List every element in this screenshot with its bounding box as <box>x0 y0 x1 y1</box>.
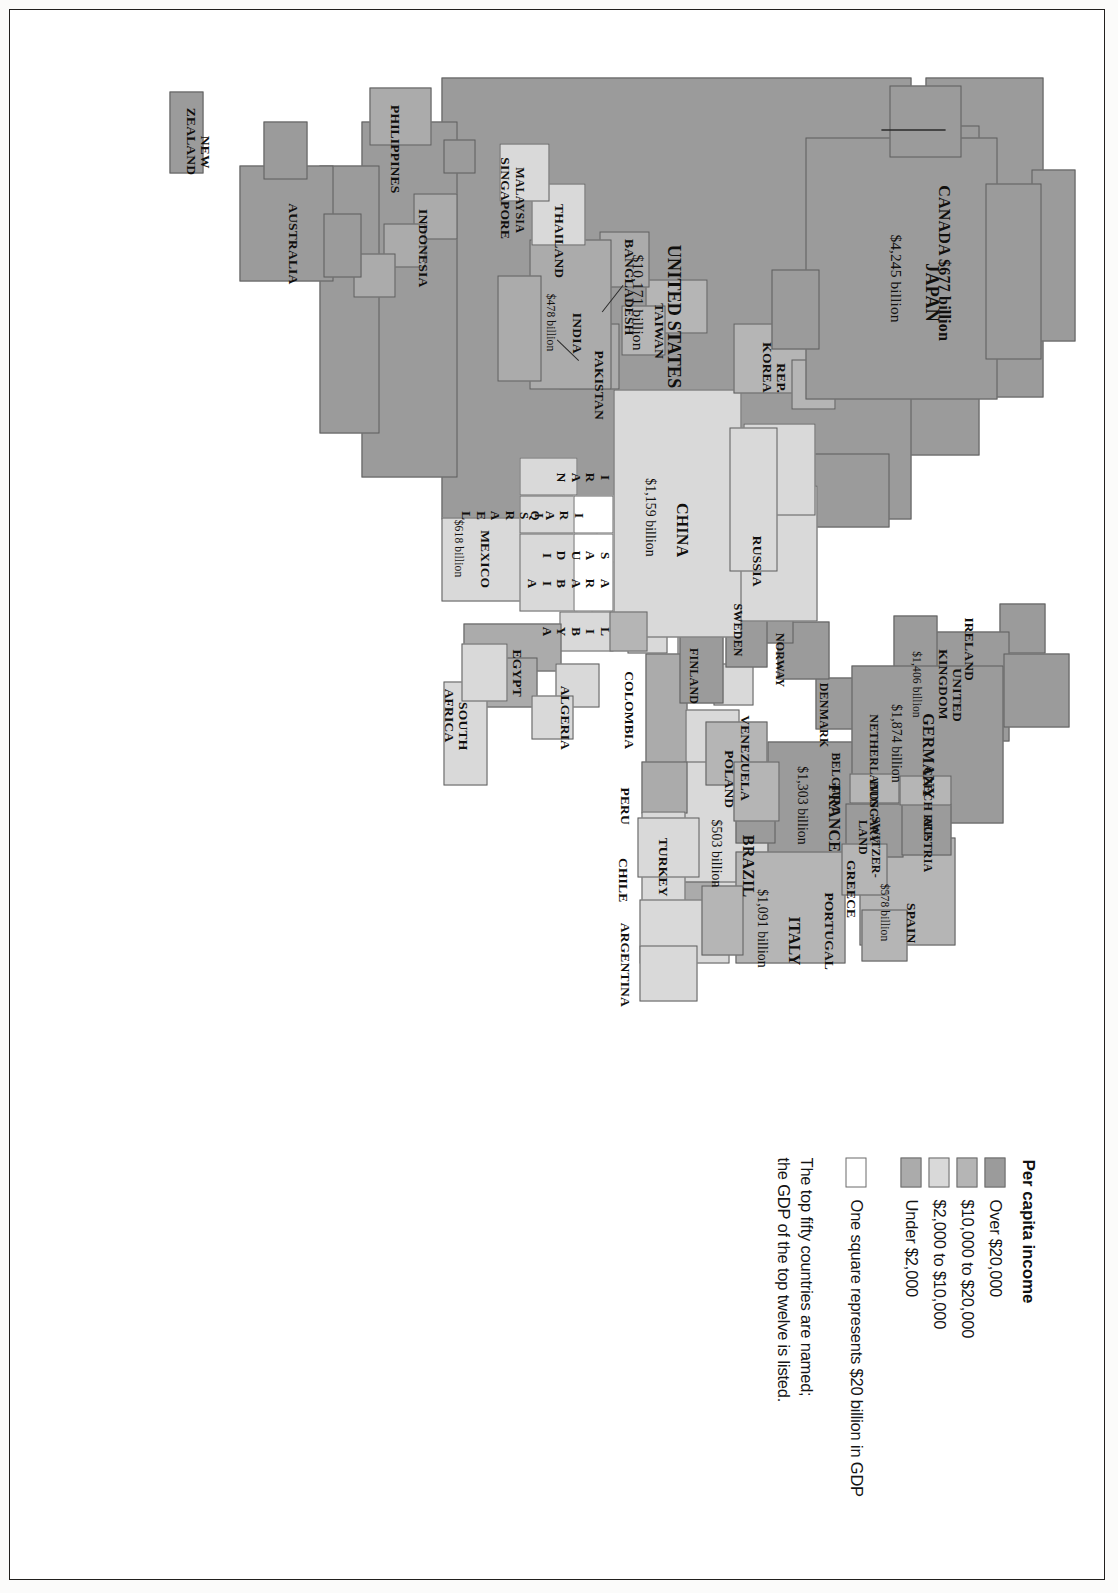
map-frame: CANADA $677 billion UNITED STATES $10,17… <box>9 9 1105 1580</box>
country-shape-finland[interactable] <box>679 629 723 703</box>
country-shape-japan-b[interactable] <box>985 183 1041 359</box>
country-shape-saudi-arabia[interactable] <box>519 533 577 611</box>
leader-line-canada <box>881 129 945 130</box>
page-background: CANADA $677 billion UNITED STATES $10,17… <box>0 0 1118 1593</box>
country-shape-south-africa-b[interactable] <box>461 643 507 701</box>
legend-note: The top fifty countries are named; the G… <box>771 1157 817 1537</box>
legend: Per capita income Over $20,000 $10,000 t… <box>771 1157 1037 1547</box>
country-shape-turkey[interactable] <box>637 817 699 877</box>
country-shape-singapore[interactable] <box>443 139 475 173</box>
country-shape-greece[interactable] <box>841 843 887 895</box>
country-shape-czech-rep[interactable] <box>899 775 951 805</box>
country-shape-iran[interactable] <box>519 457 577 495</box>
country-shape-saudi-arabia-b[interactable] <box>573 533 613 611</box>
legend-swatch-over-20000 <box>984 1157 1005 1187</box>
country-shape-malaysia[interactable] <box>499 143 549 201</box>
country-shape-australia-b[interactable] <box>323 213 361 277</box>
country-shape-iraq[interactable] <box>519 495 577 533</box>
country-shape-poland-b[interactable] <box>733 761 779 821</box>
country-shape-peru[interactable] <box>641 761 687 813</box>
legend-swatch-10000-20000 <box>956 1157 977 1187</box>
country-shape-china[interactable] <box>613 389 741 637</box>
legend-row-tier-4[interactable]: Under $2,000 <box>900 1157 921 1547</box>
country-shape-japan-d[interactable] <box>771 269 819 349</box>
legend-label-tier-4: Under $2,000 <box>901 1199 920 1297</box>
country-shape-algeria-b[interactable] <box>531 695 573 739</box>
legend-title: Per capita income <box>1017 1159 1037 1547</box>
country-shape-australia[interactable] <box>239 165 333 281</box>
country-shape-italy-b[interactable] <box>701 885 743 955</box>
country-shape-libya[interactable] <box>559 611 613 651</box>
country-shape-hungary[interactable] <box>849 773 899 803</box>
country-shape-philippines[interactable] <box>369 87 431 145</box>
country-shape-japan-c[interactable] <box>889 85 961 157</box>
legend-swatch-2000-10000 <box>928 1157 949 1187</box>
legend-row-tier-3[interactable]: $2,000 to $10,000 <box>928 1157 949 1547</box>
country-shape-new-zealand[interactable] <box>169 91 203 173</box>
legend-row-tier-2[interactable]: $10,000 to $20,000 <box>956 1157 977 1547</box>
country-shape-united-kingdom-b[interactable] <box>1003 653 1069 727</box>
legend-label-tier-2: $10,000 to $20,000 <box>957 1199 976 1338</box>
country-shape-taiwan-b[interactable] <box>621 305 665 355</box>
legend-label-unit: One square represents $20 billion in GDP <box>846 1199 865 1496</box>
country-shape-china-b[interactable] <box>729 427 777 571</box>
legend-swatch-unit-square <box>845 1157 866 1187</box>
country-shape-italy[interactable] <box>735 851 845 963</box>
legend-swatch-under-2000 <box>900 1157 921 1187</box>
country-shape-austria[interactable] <box>901 803 951 855</box>
country-shape-australia-c[interactable] <box>263 121 307 179</box>
legend-label-tier-1: Over $20,000 <box>985 1199 1004 1297</box>
country-shape-india-b[interactable] <box>497 275 541 381</box>
country-shape-portugal[interactable] <box>861 909 907 961</box>
country-shape-argentina-b[interactable] <box>639 945 697 1001</box>
legend-label-tier-3: $2,000 to $10,000 <box>929 1199 948 1329</box>
legend-row-tier-1[interactable]: Over $20,000 <box>984 1157 1005 1547</box>
country-shape-japan[interactable] <box>805 137 997 399</box>
legend-row-unit: One square represents $20 billion in GDP <box>845 1157 866 1547</box>
country-shape-gulf-states[interactable] <box>609 611 647 651</box>
country-shape-israel[interactable] <box>573 495 613 533</box>
cartogram-stage: CANADA $677 billion UNITED STATES $10,17… <box>17 17 1097 1572</box>
